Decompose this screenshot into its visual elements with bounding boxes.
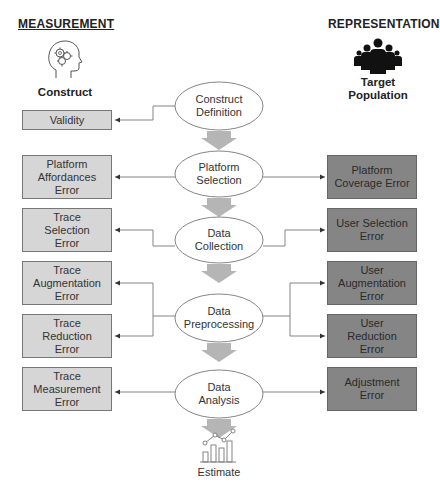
box-line: Validity (50, 114, 85, 127)
connector-user-reduction (290, 316, 325, 336)
trace-selection-error-box: Trace Selection Error (22, 208, 112, 252)
platform-coverage-error-box: Platform Coverage Error (327, 155, 417, 199)
stage-label-line2: Selection (196, 174, 241, 187)
stage-label-line1: Platform (199, 161, 240, 174)
box-line: Error (55, 184, 79, 197)
box-line: User (360, 317, 383, 330)
box-line: User Selection (336, 217, 408, 230)
box-line: Reduction (42, 330, 92, 343)
connector-trace-augmentation (115, 283, 153, 316)
stage-label-line2: Definition (196, 106, 242, 119)
validity-box: Validity (22, 110, 112, 130)
box-line: Trace (53, 264, 81, 277)
stage-label-line1: Data (207, 305, 230, 318)
box-line: Measurement (33, 383, 100, 396)
box-line: Error (360, 290, 384, 303)
box-line: Augmentation (33, 277, 101, 290)
box-line: Error (360, 343, 384, 356)
stage-label-line2: Analysis (199, 394, 240, 407)
trace-measurement-error-box: Trace Measurement Error (22, 367, 112, 411)
flow-arrow (201, 264, 237, 283)
trace-augmentation-error-box: Trace Augmentation Error (22, 261, 112, 305)
box-line: Error (55, 396, 79, 409)
box-line: Error (360, 389, 384, 402)
box-line: Augmentation (338, 277, 406, 290)
connector-user-selection (263, 230, 325, 246)
connector-user-augmentation (290, 283, 325, 316)
connector-trace-reduction (115, 316, 153, 336)
box-line: Error (55, 343, 79, 356)
connector-trace-selection (115, 230, 175, 246)
box-line: Trace (53, 370, 81, 383)
stage-label-line2: Preprocessing (184, 318, 254, 331)
box-line: Error (360, 230, 384, 243)
flow-arrow (201, 343, 237, 362)
estimate-label: Estimate (189, 466, 249, 478)
flow-arrow (201, 131, 237, 150)
user-augmentation-error-box: User Augmentation Error (327, 261, 417, 305)
stage-construct-definition: Construct Definition (179, 92, 259, 120)
stage-data-analysis: Data Analysis (179, 380, 259, 408)
box-line: Coverage Error (334, 177, 409, 190)
box-line: Error (55, 237, 79, 250)
stage-data-preprocessing: Data Preprocessing (179, 304, 259, 332)
box-line: Trace (53, 317, 81, 330)
trace-reduction-error-box: Trace Reduction Error (22, 314, 112, 358)
stage-platform-selection: Platform Selection (179, 160, 259, 188)
platform-affordances-error-box: Platform Affordances Error (22, 155, 112, 199)
stage-data-collection: Data Collection (179, 226, 259, 254)
box-line: Adjustment (344, 376, 399, 389)
user-selection-error-box: User Selection Error (327, 208, 417, 252)
box-line: Reduction (347, 330, 397, 343)
box-line: Platform (47, 158, 88, 171)
box-line: Error (55, 290, 79, 303)
flow-arrow (201, 198, 237, 217)
stage-label-line1: Construct (195, 93, 242, 106)
connector-validity (115, 106, 175, 120)
stage-label-line1: Data (207, 227, 230, 240)
adjustment-error-box: Adjustment Error (327, 367, 417, 411)
box-line: Affordances (38, 171, 97, 184)
user-reduction-error-box: User Reduction Error (327, 314, 417, 358)
box-line: Trace (53, 211, 81, 224)
stage-label-line1: Data (207, 381, 230, 394)
box-line: Selection (44, 224, 89, 237)
box-line: User (360, 264, 383, 277)
box-line: Platform (352, 164, 393, 177)
stage-label-line2: Collection (195, 240, 243, 253)
flow-arrow (201, 419, 237, 438)
